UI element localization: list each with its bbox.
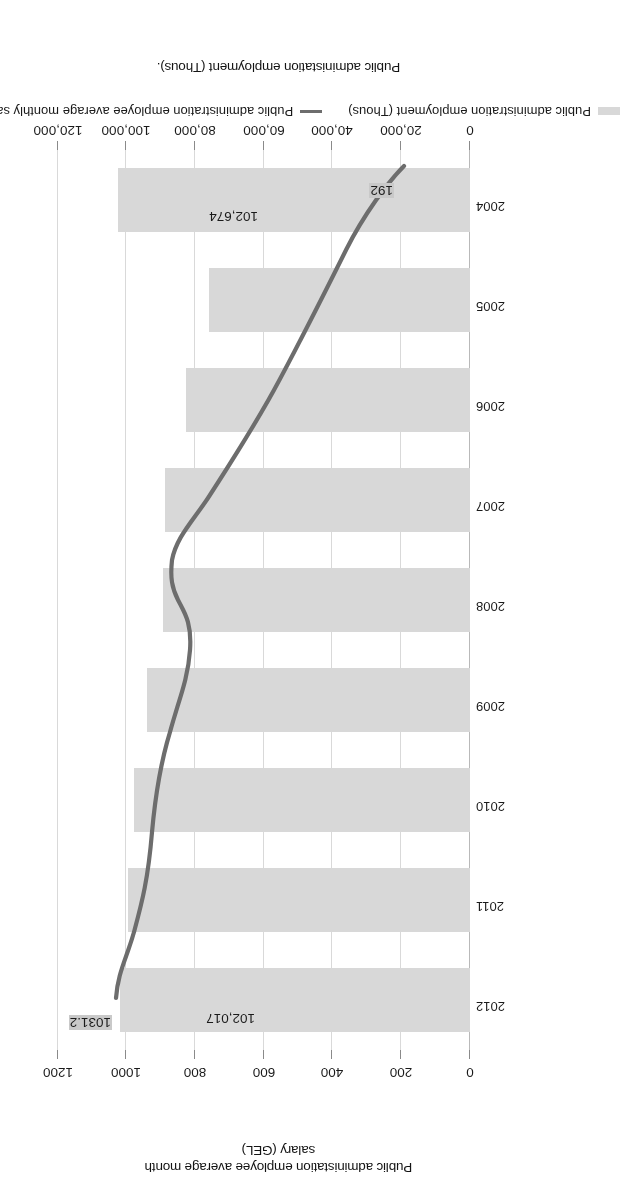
tick-employment-100000 xyxy=(125,141,126,150)
tick-salary-1000 xyxy=(125,1050,126,1059)
data-label-employment-2004: 102,674 xyxy=(209,209,258,224)
data-label-employment-2012: 102,017 xyxy=(206,1011,255,1026)
ticklabel-employment-0: 0 xyxy=(466,123,474,138)
category-label-2009: 2009 xyxy=(476,699,530,714)
legend-item-employment[interactable]: Public administration employment (Thous) xyxy=(348,104,620,119)
tick-salary-600 xyxy=(263,1050,264,1059)
salary-line-series xyxy=(58,150,470,1050)
tick-employment-0 xyxy=(469,141,470,150)
legend-label-employment: Public administration employment (Thous) xyxy=(348,104,591,119)
chart-legend: Public administration employment (Thous)… xyxy=(0,104,557,119)
line-swatch-icon xyxy=(300,110,322,113)
salary-axis-title-line1: Public administation employee average mo… xyxy=(145,1160,413,1175)
salary-line-path xyxy=(116,166,404,998)
ticklabel-salary-1200: 1200 xyxy=(43,1065,73,1080)
legend-item-salary[interactable]: Public administration employee average m… xyxy=(0,104,322,119)
ticklabel-salary-0: 0 xyxy=(466,1065,474,1080)
salary-axis-title: Public administation employee average mo… xyxy=(0,1141,557,1175)
tick-employment-80000 xyxy=(194,141,195,150)
category-label-2012: 2012 xyxy=(476,999,530,1014)
tick-employment-20000 xyxy=(400,141,401,150)
ticklabel-salary-800: 800 xyxy=(184,1065,207,1080)
tick-employment-120000 xyxy=(57,141,58,150)
ticklabel-salary-600: 600 xyxy=(253,1065,276,1080)
plot-area: 0 20,000 40,000 60,000 80,000 100,000 12… xyxy=(58,150,470,1050)
category-label-2006: 2006 xyxy=(476,399,530,414)
legend-label-salary: Public administration employee average m… xyxy=(0,104,293,119)
data-label-salary-2004: 192 xyxy=(369,183,394,198)
tick-salary-1200 xyxy=(57,1050,58,1059)
ticklabel-salary-1000: 1000 xyxy=(111,1065,141,1080)
category-label-2010: 2010 xyxy=(476,799,530,814)
ticklabel-salary-400: 400 xyxy=(321,1065,344,1080)
tick-salary-0 xyxy=(469,1050,470,1059)
employment-axis-title: Public administation employment (Thous). xyxy=(0,58,557,75)
category-label-2005: 2005 xyxy=(476,299,530,314)
data-label-salary-2012: 1031.2 xyxy=(69,1015,112,1030)
tick-salary-800 xyxy=(194,1050,195,1059)
ticklabel-employment-20000: 20,000 xyxy=(380,123,421,138)
ticklabel-employment-40000: 40,000 xyxy=(311,123,352,138)
tick-employment-40000 xyxy=(331,141,332,150)
category-label-2011: 2011 xyxy=(476,899,530,914)
tick-salary-400 xyxy=(331,1050,332,1059)
ticklabel-employment-80000: 80,000 xyxy=(174,123,215,138)
category-label-2008: 2008 xyxy=(476,599,530,614)
tick-salary-200 xyxy=(400,1050,401,1059)
ticklabel-salary-200: 200 xyxy=(390,1065,413,1080)
salary-axis-title-line2: salary (GEL) xyxy=(242,1143,315,1158)
ticklabel-employment-60000: 60,000 xyxy=(243,123,284,138)
bar-swatch-icon xyxy=(598,108,620,116)
ticklabel-employment-120000: 120,000 xyxy=(34,123,83,138)
category-label-2007: 2007 xyxy=(476,499,530,514)
ticklabel-employment-100000: 100,000 xyxy=(102,123,151,138)
category-label-2004: 2004 xyxy=(476,199,530,214)
tick-employment-60000 xyxy=(263,141,264,150)
